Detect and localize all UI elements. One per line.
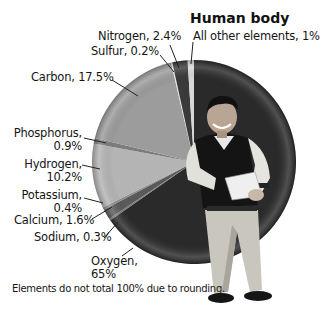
label-sodium: Sodium, 0.3% [34,231,111,244]
label-hydrogen-value: 10.2% [10,171,82,184]
label-carbon: Carbon, 17.5% [31,71,114,84]
label-oxygen: Oxygen, 65% [91,255,138,281]
label-phosphorus-value: 0.9% [10,140,82,153]
label-all-other: All other elements, 1% [193,30,320,43]
label-calcium: Calcium, 1.6% [14,214,94,227]
label-potassium: Potassium, 0.4% [10,189,82,215]
human-body-pie-chart: Human body Nitrogen, 2.4% Sulfur, 0.2% A… [0,0,330,315]
footnote: Elements do not total 100% due to roundi… [12,283,225,294]
label-hydrogen: Hydrogen, 10.2% [10,158,82,184]
label-nitrogen: Nitrogen, 2.4% [98,30,181,43]
label-sulfur: Sulfur, 0.2% [91,45,159,58]
chart-title: Human body [190,10,289,26]
label-oxygen-value: 65% [91,268,138,281]
label-phosphorus: Phosphorus, 0.9% [10,127,82,153]
